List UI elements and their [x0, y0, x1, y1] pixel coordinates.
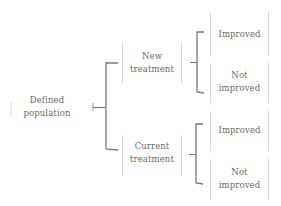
node-label: Not: [211, 69, 268, 82]
upper-outcome-bracket: [197, 32, 204, 93]
main-bracket: [106, 63, 118, 150]
node-new-improved: Improved: [211, 28, 268, 41]
node-label: Improved: [211, 28, 268, 41]
node-label: population: [12, 107, 82, 120]
node-current-treatment: Current treatment: [123, 140, 181, 166]
node-label: improved: [211, 179, 268, 192]
node-label: Defined: [12, 94, 82, 107]
node-new-treatment: New treatment: [123, 50, 181, 76]
node-label: Current: [123, 140, 181, 153]
node-new-not-improved: Not improved: [211, 69, 268, 95]
study-design-diagram: Defined population New treatment Current…: [0, 0, 281, 206]
node-current-not-improved: Not improved: [211, 166, 268, 192]
node-current-improved: Improved: [211, 124, 268, 137]
lower-outcome-bracket: [196, 124, 203, 184]
node-label: treatment: [123, 153, 181, 166]
node-label: Not: [211, 166, 268, 179]
node-label: Improved: [211, 124, 268, 137]
node-label: treatment: [123, 63, 181, 76]
node-label: New: [123, 50, 181, 63]
node-label: improved: [211, 82, 268, 95]
node-defined-population: Defined population: [12, 94, 82, 120]
